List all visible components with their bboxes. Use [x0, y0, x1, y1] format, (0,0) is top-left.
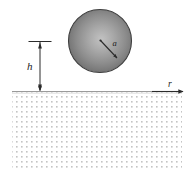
- half-space-group: [12, 92, 182, 169]
- sphere-center-dot: [99, 39, 101, 41]
- height-label: h: [27, 60, 33, 72]
- height-top-arrowhead: [38, 43, 42, 49]
- radius-label: a: [113, 38, 117, 48]
- sphere-group: a: [69, 10, 132, 73]
- height-bottom-arrowhead: [38, 85, 42, 92]
- figure-container: a h r: [0, 0, 190, 178]
- r-axis-group: r: [152, 79, 183, 92]
- sphere-halfspace-diagram: a h r: [0, 0, 190, 178]
- r-axis-label: r: [168, 79, 172, 89]
- height-dimension-group: h: [27, 42, 52, 92]
- half-space-fill: [12, 92, 182, 168]
